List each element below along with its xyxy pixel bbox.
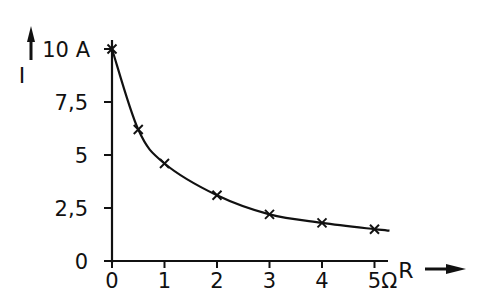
curve-path	[112, 49, 390, 231]
x-tick-label: 0	[105, 269, 118, 293]
cross-marker-icon	[213, 191, 222, 200]
x-arrow-icon	[425, 264, 466, 274]
y-tick-label: 0	[75, 250, 88, 274]
ticks: 02,557,510 A012345Ω	[42, 38, 397, 293]
x-axis-title: R	[398, 258, 413, 283]
x-tick-label: 2	[210, 269, 223, 293]
x-tick-label: 1	[158, 269, 171, 293]
data-curve	[112, 49, 390, 231]
x-tick-label: 4	[315, 269, 328, 293]
y-arrow-icon	[27, 26, 35, 60]
y-axis-title: I	[19, 63, 26, 88]
x-tick-label: 3	[263, 269, 276, 293]
x-tick-label: 5Ω	[368, 269, 397, 293]
cross-marker-icon	[160, 159, 169, 168]
y-tick-label: 7,5	[55, 91, 88, 115]
cross-marker-icon	[134, 125, 143, 134]
y-tick-label: 2,5	[55, 197, 88, 221]
current-vs-resistance-plot: 02,557,510 A012345Ω I R	[0, 0, 483, 306]
y-tick-label: 5	[75, 144, 88, 168]
y-tick-label: 10 A	[42, 38, 90, 62]
chart-container: 02,557,510 A012345Ω I R	[0, 0, 483, 306]
